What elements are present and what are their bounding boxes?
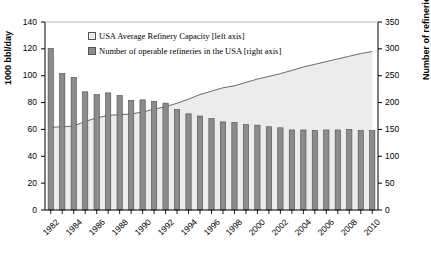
legend-label-capacity: USA Average Refinery Capacity [left axis…: [99, 31, 244, 41]
legend-item-refineries: Number of operable refineries in the USA…: [88, 46, 281, 56]
legend-swatch-area: [88, 32, 96, 40]
legend-item-capacity: USA Average Refinery Capacity [left axis…: [88, 31, 244, 41]
legend-swatch-bar: [88, 47, 96, 55]
legend-label-refineries: Number of operable refineries in the USA…: [99, 46, 281, 56]
